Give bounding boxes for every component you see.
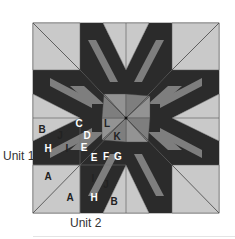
piece-label-h: H (90, 192, 97, 203)
piece-label-g: G (114, 151, 122, 162)
piece-label-k: K (113, 131, 121, 142)
piece-label-b: B (110, 196, 117, 207)
piece-label-i: I (92, 173, 95, 184)
piece-label-i: I (66, 143, 69, 154)
divider-rule (33, 236, 235, 237)
piece-label-h: H (44, 143, 51, 154)
quilt-star-diagram: BCLJDKHIEEFGAIJAHB (0, 0, 235, 239)
piece-label-b: B (38, 124, 45, 135)
piece-label-j: J (57, 130, 63, 141)
unit-2-label: Unit 2 (70, 216, 101, 230)
piece-label-e: E (91, 152, 98, 163)
piece-label-a: A (66, 192, 73, 203)
piece-label-f: F (103, 151, 109, 162)
piece-label-a: A (44, 171, 51, 182)
piece-label-j: J (103, 179, 109, 190)
piece-label-d: D (83, 130, 90, 141)
piece-label-c: C (75, 118, 82, 129)
unit-1-label: Unit 1 (3, 149, 34, 163)
piece-label-l: L (104, 118, 110, 129)
piece-label-e: E (81, 142, 88, 153)
